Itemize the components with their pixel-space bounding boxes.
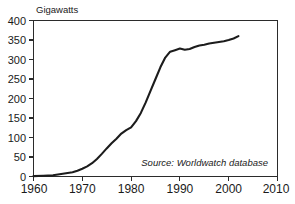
x-tick-label: 1980 [118, 182, 145, 196]
y-axis-label: Gigawatts [36, 4, 78, 15]
chart-figure: Gigawatts 400 350 300 250 200 150 100 50… [0, 0, 295, 204]
x-tick-labels: 1960 1970 1980 1990 2000 2010 [21, 182, 290, 196]
chart-svg: Gigawatts 400 350 300 250 200 150 100 50… [0, 0, 295, 204]
data-series-line [34, 36, 239, 176]
y-tick-label: 400 [8, 15, 26, 27]
source-annotation: Source: Worldwatch database [141, 157, 268, 168]
y-tick-labels: 400 350 300 250 200 150 100 50 0 [8, 15, 26, 183]
y-tick-label: 150 [8, 112, 26, 124]
y-tick-label: 0 [20, 171, 26, 183]
y-tick-label: 350 [8, 34, 26, 46]
x-tick-label: 1990 [167, 182, 194, 196]
y-tick-label: 100 [8, 132, 26, 144]
x-tick-label: 1960 [21, 182, 48, 196]
x-tick-label: 1970 [69, 182, 96, 196]
y-tick-label: 50 [14, 151, 26, 163]
x-tick-label: 2000 [215, 182, 242, 196]
plot-frame [34, 21, 278, 177]
y-tick-label: 300 [8, 54, 26, 66]
x-tick-label: 2010 [263, 182, 290, 196]
y-tick-label: 200 [8, 93, 26, 105]
y-tick-label: 250 [8, 73, 26, 85]
